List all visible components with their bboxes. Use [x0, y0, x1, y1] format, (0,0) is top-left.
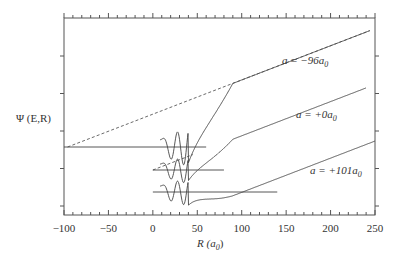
x-tick-label: −100	[53, 222, 76, 234]
y-axis-label-text: Ψ (E,R)	[16, 112, 51, 125]
series-label-0-sub: 0	[324, 60, 328, 69]
series-label-1-main: a = +0a	[296, 108, 333, 120]
wavefunction-0	[160, 31, 370, 165]
x-tick-label: 250	[367, 222, 384, 234]
x-tick-label: 100	[233, 222, 250, 234]
series-label-a-neg96: a = −96a0	[282, 54, 328, 69]
x-tick-label: 200	[322, 222, 339, 234]
y-axis-label: Ψ (E,R)	[16, 112, 51, 125]
series-label-a-0: a = +0a0	[296, 108, 337, 123]
series-label-1-sub: 0	[333, 114, 337, 123]
x-tick-label: 50	[192, 222, 204, 234]
x-axis-label-close: )	[220, 237, 224, 250]
x-tick-label: −50	[100, 222, 118, 234]
x-axis-label: R (a0)	[196, 237, 224, 252]
series-label-2-sub: 0	[358, 170, 362, 179]
series-label-2-main: a = +101a	[310, 164, 358, 176]
series-label-0-main: a = −96a	[282, 54, 325, 66]
x-tick-label: 0	[150, 222, 156, 234]
series-label-a-101: a = +101a0	[310, 164, 362, 179]
chart: −100−50050100150200250 Ψ (E,R) R (a0) a …	[0, 0, 394, 262]
x-tick-labels: −100−50050100150200250	[53, 222, 384, 234]
x-tick-label: 150	[278, 222, 295, 234]
x-axis-label-text: R (a	[196, 237, 216, 250]
